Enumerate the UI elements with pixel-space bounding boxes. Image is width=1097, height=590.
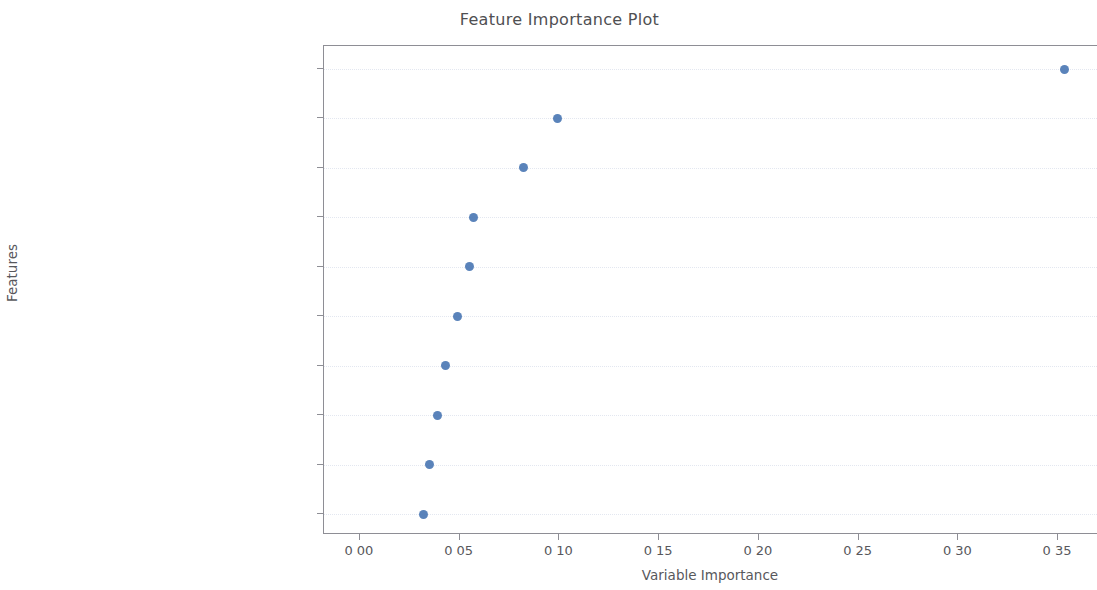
y-axis-label: Features [4,223,20,323]
x-axis-tick-mark [858,534,859,540]
data-point [519,163,528,172]
data-point [1060,65,1069,74]
gridline [324,168,1097,169]
gridline [324,267,1097,268]
data-point [419,510,428,519]
chart-title-text: Feature Importance Plot [460,10,659,29]
x-axis-tick-label: 0 05 [429,543,489,558]
x-axis-tick-mark [758,534,759,540]
x-axis-tick-mark [1057,534,1058,540]
gridline [324,465,1097,466]
x-axis-tick-label: 0 10 [528,543,588,558]
data-point [433,411,442,420]
plot-area [323,45,1097,534]
x-axis-tick-label: 0 35 [1027,543,1087,558]
data-point [425,460,434,469]
y-axis-label-container: Features [0,0,30,590]
gridline [324,69,1097,70]
gridline [324,514,1097,515]
data-point [453,312,462,321]
x-axis-tick-mark [459,534,460,540]
gridline [324,118,1097,119]
x-axis-tick-mark [558,534,559,540]
gridline [324,366,1097,367]
data-point [553,114,562,123]
x-axis-tick-mark [359,534,360,540]
gridline [324,316,1097,317]
feature-importance-figure: Feature Importance Plot Features thal_3n… [0,0,1097,590]
data-point [469,213,478,222]
chart-title: Feature Importance Plot [0,10,1097,29]
x-axis-label: Variable Importance [323,567,1097,583]
data-point [441,361,450,370]
x-axis-tick-label: 0 25 [828,543,888,558]
x-axis-tick-mark [658,534,659,540]
x-axis-tick-label: 0 15 [628,543,688,558]
data-point [465,262,474,271]
x-axis-tick-label: 0 20 [728,543,788,558]
x-axis-tick-label: 0 00 [329,543,389,558]
gridline [324,217,1097,218]
x-axis-tick-label: 0 30 [927,543,987,558]
x-axis-tick-mark [957,534,958,540]
